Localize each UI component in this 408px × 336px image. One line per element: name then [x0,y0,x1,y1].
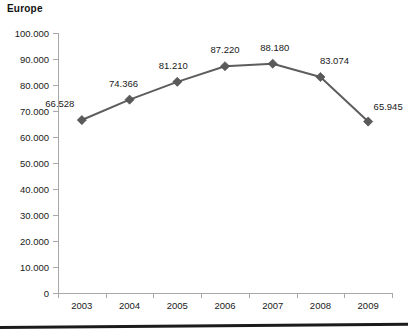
plot-area [58,33,392,293]
x-axis-tick-label: 2008 [310,300,331,311]
x-axis-tick-label: 2005 [167,300,188,311]
x-axis-tick [392,293,393,298]
page-bottom-rule [0,323,408,329]
y-axis-tick-label: 90.000 [20,54,49,65]
y-axis-tick [53,33,58,34]
y-axis-line [58,33,59,294]
data-point-label: 74.366 [109,78,138,89]
x-axis-tick-label: 2006 [214,300,235,311]
data-point-label: 88.180 [260,42,289,53]
y-axis-tick [53,215,58,216]
x-axis-line [58,293,392,294]
data-point-label: 65.945 [374,101,403,112]
y-axis-tick [53,59,58,60]
y-axis-tick-label: 10.000 [20,262,49,273]
x-axis-tick [58,293,59,298]
y-axis-tick-label: 30.000 [20,210,49,221]
x-axis-tick [106,293,107,298]
y-axis-tick-label: 60.000 [20,132,49,143]
y-axis-tick [53,85,58,86]
x-axis-tick-label: 2007 [262,300,283,311]
y-axis-tick [53,189,58,190]
x-axis-tick-label: 2004 [119,300,140,311]
y-axis-tick [53,163,58,164]
data-point-label: 87.220 [210,44,239,55]
y-axis-tick-label: 50.000 [20,158,49,169]
y-axis-tick [53,267,58,268]
x-axis-tick-label: 2009 [358,300,379,311]
data-point-label: 83.074 [320,55,349,66]
y-axis-tick-label: 40.000 [20,184,49,195]
y-axis-tick [53,241,58,242]
data-point-label: 66.528 [45,98,74,109]
y-axis-tick [53,111,58,112]
x-axis-tick [201,293,202,298]
y-axis-tick-label: 20.000 [20,236,49,247]
y-axis-tick [53,137,58,138]
y-axis-tick-label: 80.000 [20,80,49,91]
x-axis-tick [297,293,298,298]
y-axis-tick-label: 0 [44,288,49,299]
data-point-label: 81.210 [159,60,188,71]
y-axis-tick-label: 100.000 [15,28,49,39]
x-axis-tick [153,293,154,298]
x-axis-tick-label: 2003 [71,300,92,311]
x-axis-tick [344,293,345,298]
chart-title: Europe [7,3,43,14]
x-axis-tick [249,293,250,298]
